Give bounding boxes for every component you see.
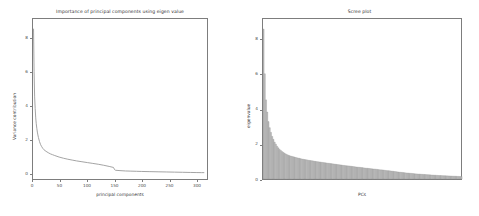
right-chart-title: Scree plot xyxy=(240,9,479,15)
scree-bar xyxy=(409,173,410,179)
scree-bar xyxy=(338,165,339,179)
left-y-tick-mark xyxy=(30,140,32,141)
scree-bar xyxy=(350,166,351,179)
scree-bar xyxy=(315,161,316,179)
left-x-tick-mark xyxy=(170,180,171,182)
left-x-tick-label: 150 xyxy=(107,184,123,189)
scree-bar xyxy=(389,171,390,179)
scree-bar xyxy=(410,173,411,179)
scree-bar xyxy=(351,166,352,179)
scree-bar xyxy=(416,174,417,179)
left-y-tick-label: 8 xyxy=(16,36,28,41)
scree-bar xyxy=(382,170,383,179)
scree-bar xyxy=(423,174,424,179)
scree-bar xyxy=(270,132,271,179)
scree-bar xyxy=(274,142,275,179)
scree-bar xyxy=(308,160,309,179)
scree-bar xyxy=(386,170,387,179)
scree-bar xyxy=(269,128,270,179)
left-y-axis-label: Variance contribution xyxy=(12,93,17,140)
scree-bar xyxy=(336,164,337,179)
scree-bar xyxy=(433,175,434,179)
variance-contribution-curve xyxy=(34,29,205,173)
scree-bar xyxy=(384,170,385,179)
panel-importance-of-principal-components: Importance of principal components using… xyxy=(0,0,240,216)
left-y-tick-label: 2 xyxy=(16,138,28,143)
scree-bar xyxy=(282,152,283,179)
scree-bar xyxy=(441,176,442,179)
scree-bar xyxy=(356,167,357,179)
scree-bar xyxy=(388,171,389,179)
scree-bar xyxy=(316,162,317,179)
scree-bar xyxy=(387,171,388,179)
scree-bar xyxy=(376,169,377,179)
scree-bar xyxy=(280,150,281,179)
scree-bar xyxy=(377,169,378,179)
scree-bar xyxy=(431,175,432,179)
scree-bar xyxy=(343,165,344,179)
scree-bar xyxy=(459,176,460,179)
scree-bar xyxy=(283,152,284,179)
scree-bar xyxy=(405,173,406,179)
scree-bar xyxy=(428,175,429,179)
scree-bar xyxy=(392,171,393,179)
scree-bar xyxy=(442,176,443,179)
scree-bar xyxy=(301,159,302,179)
scree-bar xyxy=(452,176,453,179)
scree-bar-series xyxy=(263,19,461,179)
right-y-tick-label: 2 xyxy=(246,142,258,147)
scree-bar xyxy=(430,175,431,179)
scree-bar xyxy=(461,177,462,179)
scree-bar xyxy=(342,165,343,179)
scree-bar xyxy=(426,175,427,179)
scree-bar xyxy=(429,175,430,179)
left-y-tick-mark xyxy=(30,174,32,175)
scree-bar xyxy=(278,148,279,179)
scree-bar xyxy=(460,176,461,179)
scree-bar xyxy=(341,165,342,179)
figure-canvas: Importance of principal components using… xyxy=(0,0,479,216)
left-chart-title: Importance of principal components using… xyxy=(0,9,240,15)
left-x-tick-mark xyxy=(142,180,143,182)
scree-bar xyxy=(383,170,384,179)
scree-bar xyxy=(403,173,404,179)
scree-bar xyxy=(277,146,278,179)
scree-bar xyxy=(288,155,289,179)
scree-bar xyxy=(337,165,338,179)
scree-bar xyxy=(290,156,291,179)
scree-bar xyxy=(296,158,297,179)
scree-bar xyxy=(327,163,328,179)
scree-bar xyxy=(325,163,326,179)
scree-bar xyxy=(445,176,446,179)
scree-bar xyxy=(294,157,295,179)
scree-bar xyxy=(372,169,373,179)
scree-bar xyxy=(420,174,421,179)
scree-bar xyxy=(275,144,276,179)
scree-bar xyxy=(267,112,268,179)
scree-bar xyxy=(309,160,310,179)
scree-bar xyxy=(348,166,349,179)
scree-bar xyxy=(352,166,353,179)
scree-bar xyxy=(299,158,300,179)
scree-bar xyxy=(360,167,361,179)
scree-bar xyxy=(454,176,455,179)
right-y-tick-mark xyxy=(260,39,262,40)
left-x-tick-label: 100 xyxy=(79,184,95,189)
scree-bar xyxy=(374,169,375,179)
scree-bar xyxy=(320,162,321,179)
scree-bar xyxy=(457,176,458,179)
scree-bar xyxy=(398,172,399,179)
scree-bar xyxy=(265,100,266,179)
scree-bar xyxy=(358,167,359,179)
left-x-tick-mark xyxy=(115,180,116,182)
left-x-tick-label: 250 xyxy=(162,184,178,189)
scree-bar xyxy=(439,176,440,179)
scree-bar xyxy=(369,169,370,179)
right-y-tick-mark xyxy=(260,74,262,75)
scree-bar xyxy=(300,159,301,179)
left-line-series xyxy=(33,19,207,179)
scree-bar xyxy=(311,161,312,179)
scree-bar xyxy=(434,175,435,179)
right-y-tick-label: 0 xyxy=(246,178,258,183)
scree-bar xyxy=(322,162,323,179)
